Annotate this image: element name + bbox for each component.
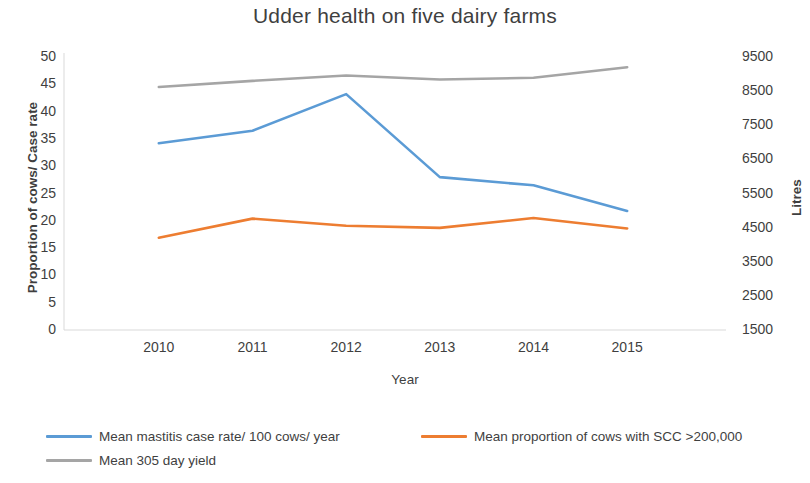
legend-swatch-blue-icon xyxy=(46,435,92,438)
y-axis-right-title: Litres xyxy=(789,108,804,288)
series-line-2[interactable] xyxy=(159,67,627,87)
y-axis-left-tick-label: 45 xyxy=(40,76,56,90)
y-axis-left-tick-label: 40 xyxy=(40,104,56,118)
y-axis-right-tick-label: 9500 xyxy=(742,49,773,63)
y-axis-left-tick-label: 5 xyxy=(48,295,56,309)
y-axis-left-tick-label: 50 xyxy=(40,49,56,63)
y-axis-right-tick-label: 7500 xyxy=(742,117,773,131)
legend-row-1: Mean mastitis case rate/ 100 cows/ year … xyxy=(46,424,786,448)
y-axis-left-tick-label: 20 xyxy=(40,213,56,227)
x-axis-tick-label: 2010 xyxy=(124,340,194,354)
series-line-0[interactable] xyxy=(159,94,627,211)
y-axis-left-tick-label: 25 xyxy=(40,186,56,200)
legend-row-2: Mean 305 day yield xyxy=(46,448,786,472)
y-axis-right-tick-label: 1500 xyxy=(742,322,773,336)
y-axis-right-tick-label: 3500 xyxy=(742,254,773,268)
legend-label-mastitis-case-rate: Mean mastitis case rate/ 100 cows/ year xyxy=(99,429,340,444)
series-line-1[interactable] xyxy=(159,218,627,238)
y-axis-left-title: Proportion of cows/ Case rate xyxy=(25,58,40,338)
plot-area xyxy=(0,0,810,483)
y-axis-left-tick-label: 30 xyxy=(40,158,56,172)
y-axis-right-tick-label: 4500 xyxy=(742,220,773,234)
y-axis-right-tick-label: 5500 xyxy=(742,186,773,200)
x-axis-tick-label: 2012 xyxy=(311,340,381,354)
legend-item-305-day-yield[interactable]: Mean 305 day yield xyxy=(46,453,421,468)
x-axis-tick-label: 2013 xyxy=(405,340,475,354)
x-axis-title: Year xyxy=(110,372,700,387)
legend-label-scc-proportion: Mean proportion of cows with SCC >200,00… xyxy=(474,429,742,444)
chart-container: Udder health on five dairy farms Proport… xyxy=(0,0,810,483)
chart-title: Udder health on five dairy farms xyxy=(0,4,810,28)
legend-label-305-day-yield: Mean 305 day yield xyxy=(99,453,216,468)
x-axis-tick-label: 2014 xyxy=(499,340,569,354)
legend-item-scc-proportion[interactable]: Mean proportion of cows with SCC >200,00… xyxy=(421,429,742,444)
chart-legend: Mean mastitis case rate/ 100 cows/ year … xyxy=(46,424,786,472)
y-axis-left-tick-label: 0 xyxy=(48,322,56,336)
y-axis-left-tick-label: 10 xyxy=(40,267,56,281)
legend-swatch-grey-icon xyxy=(46,459,92,462)
x-axis-tick-label: 2015 xyxy=(592,340,662,354)
y-axis-right-tick-label: 8500 xyxy=(742,83,773,97)
y-axis-right-tick-label: 2500 xyxy=(742,288,773,302)
x-axis-tick-label: 2011 xyxy=(218,340,288,354)
y-axis-left-tick-label: 15 xyxy=(40,240,56,254)
y-axis-right-tick-label: 6500 xyxy=(742,151,773,165)
y-axis-left-tick-label: 35 xyxy=(40,131,56,145)
legend-swatch-orange-icon xyxy=(421,435,467,438)
legend-item-mastitis-case-rate[interactable]: Mean mastitis case rate/ 100 cows/ year xyxy=(46,429,421,444)
